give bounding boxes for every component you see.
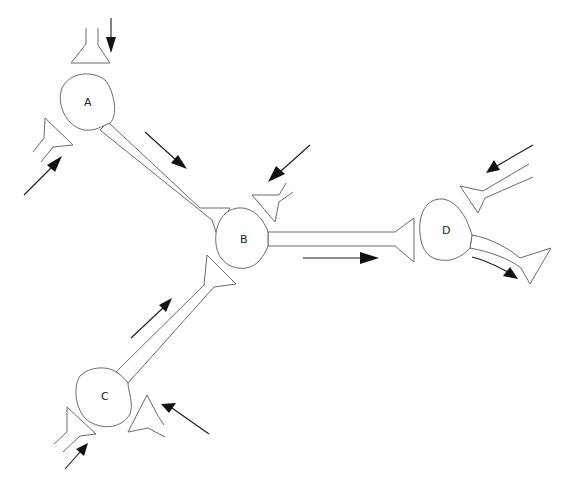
axon-c-to-b <box>116 255 236 383</box>
neuron-label-a: A <box>84 96 92 109</box>
terminal-top-a <box>71 28 110 63</box>
arrow-into-a-left <box>24 156 62 195</box>
neuron-b: B <box>216 183 414 268</box>
neuron-diagram: A B C D <box>0 0 576 485</box>
neuron-d: D <box>420 164 551 284</box>
arrow-axon-b <box>303 252 379 264</box>
axon-b-to-d <box>268 218 414 262</box>
diagram-svg: A B C D <box>0 0 576 485</box>
terminal-top-d <box>460 164 533 213</box>
neuron-a: A <box>33 28 230 232</box>
neuron-label-c: C <box>101 390 109 403</box>
arrow-into-a-top <box>106 18 116 53</box>
terminal-left-a <box>33 118 73 162</box>
neuron-label-b: B <box>240 233 248 246</box>
axon-a-to-b <box>100 122 230 232</box>
arrow-into-c-right <box>161 403 209 434</box>
neuron-c: C <box>54 255 236 452</box>
terminal-right-c <box>128 395 165 437</box>
arrow-into-b-top <box>268 145 310 182</box>
neuron-label-d: D <box>442 224 450 237</box>
